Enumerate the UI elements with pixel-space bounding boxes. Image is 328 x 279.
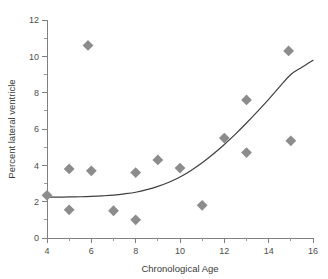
x-tick-label: 8 [133,246,138,256]
chart-canvas: 024681012 46810121416 Chronological Age … [0,0,328,279]
data-point [175,163,186,174]
y-axis-tick-labels: 024681012 [29,15,39,243]
data-point [219,133,230,144]
x-tick-label: 10 [175,246,185,256]
data-point [86,165,97,176]
x-axis-title: Chronological Age [141,263,218,274]
data-point [285,135,296,146]
x-tick-label: 4 [44,246,49,256]
fitted-trend-curve [47,60,313,197]
y-axis-title: Percent lateral ventricle [6,79,17,178]
data-point [152,154,163,165]
y-tick-label: 10 [29,52,39,62]
y-tick-label: 4 [34,161,39,171]
data-point [108,205,119,216]
data-point [130,167,141,178]
x-axis-ticks [47,238,313,243]
x-axis-tick-labels: 46810121416 [44,246,318,256]
data-point-group [42,40,297,225]
y-axis-ticks [42,20,47,238]
data-point [197,200,208,211]
data-point [83,40,94,51]
data-point [241,147,252,158]
x-tick-label: 14 [264,246,274,256]
data-point [42,190,53,201]
data-point [64,164,75,175]
data-point [64,204,75,215]
x-tick-label: 12 [219,246,229,256]
y-tick-label: 6 [34,124,39,134]
y-tick-label: 0 [34,233,39,243]
scatter-chart: 024681012 46810121416 Chronological Age … [0,0,328,279]
data-point [241,95,252,106]
y-tick-label: 12 [29,15,39,25]
y-tick-label: 8 [34,88,39,98]
y-tick-label: 2 [34,197,39,207]
x-tick-label: 16 [308,246,318,256]
data-point [130,214,141,225]
data-point [283,45,294,56]
x-tick-label: 6 [89,246,94,256]
